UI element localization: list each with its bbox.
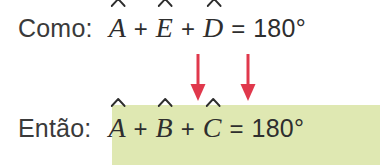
math-figure: Como: A + E + D = xyxy=(0,0,380,165)
conclusion-operator-1: + xyxy=(127,115,155,143)
premise-row: Como: A + E + D = xyxy=(18,12,306,44)
conclusion-equation: A + B + C = 180° xyxy=(107,112,304,144)
arrow-from-E xyxy=(187,54,209,102)
conclusion-term-1-letter: A xyxy=(108,112,125,143)
hat-accent-icon xyxy=(207,0,222,7)
premise-term-1: A xyxy=(108,12,127,44)
hat-accent-icon xyxy=(111,0,126,7)
conclusion-term-1: A xyxy=(107,112,126,144)
conclusion-term-3: C xyxy=(202,112,223,144)
premise-term-2-letter: E xyxy=(156,12,173,43)
premise-term-1-letter: A xyxy=(109,12,126,43)
premise-value: 180° xyxy=(253,14,306,43)
premise-term-2: E xyxy=(155,12,174,44)
conclusion-equals-sign: = xyxy=(222,115,251,143)
arrow-from-D xyxy=(237,54,259,102)
premise-term-3-letter: D xyxy=(203,12,223,43)
conclusion-term-3-letter: C xyxy=(203,112,222,143)
premise-operator-2: + xyxy=(174,15,202,43)
conclusion-term-2: B xyxy=(155,112,174,144)
conclusion-term-2-letter: B xyxy=(156,112,173,143)
hat-accent-icon xyxy=(158,0,173,7)
conclusion-label: Então: xyxy=(18,114,91,143)
premise-operator-1: + xyxy=(127,15,155,43)
premise-term-3: D xyxy=(202,12,224,44)
conclusion-value: 180° xyxy=(251,114,304,143)
conclusion-operator-2: + xyxy=(174,115,202,143)
premise-equals-sign: = xyxy=(224,15,253,43)
premise-equation: A + E + D = 180° xyxy=(108,12,306,44)
conclusion-row: Então: A + B + C = xyxy=(18,112,304,144)
premise-label: Como: xyxy=(18,14,93,43)
